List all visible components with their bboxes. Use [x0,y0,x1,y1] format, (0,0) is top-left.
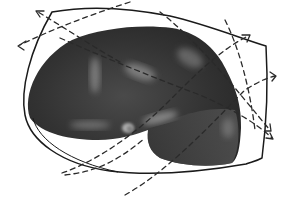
figure-canvas [0,0,290,198]
shape-3d-blob [28,27,241,166]
highlight [90,57,100,93]
